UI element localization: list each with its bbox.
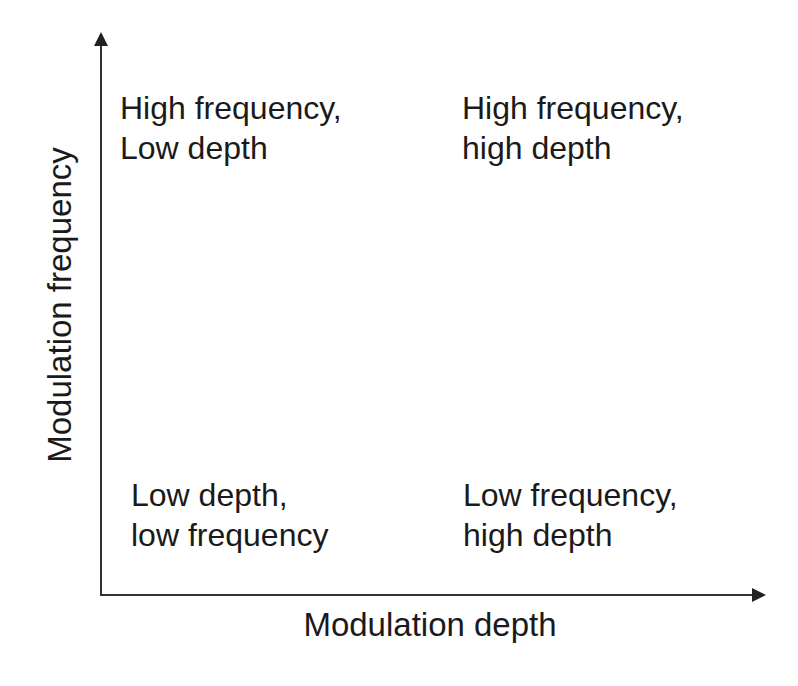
quadrant-line: Low depth, [131, 475, 328, 515]
quadrant-line: Low depth [120, 128, 342, 168]
y-axis-label: Modulation frequency [41, 147, 79, 463]
y-axis-line [100, 44, 102, 596]
quadrant-bottom-right: Low frequency, high depth [463, 475, 678, 555]
quadrant-line: high depth [463, 515, 678, 555]
quadrant-line: High frequency, [120, 88, 342, 128]
arrow-right-icon [752, 588, 766, 602]
quadrant-line: Low frequency, [463, 475, 678, 515]
arrow-up-icon [94, 32, 108, 46]
quadrant-line: low frequency [131, 515, 328, 555]
quadrant-line: high depth [462, 128, 684, 168]
x-axis-label: Modulation depth [303, 606, 556, 644]
quadrant-top-left: High frequency, Low depth [120, 88, 342, 168]
quadrant-bottom-left: Low depth, low frequency [131, 475, 328, 555]
quadrant-line: High frequency, [462, 88, 684, 128]
quadrant-top-right: High frequency, high depth [462, 88, 684, 168]
x-axis-line [100, 594, 756, 596]
